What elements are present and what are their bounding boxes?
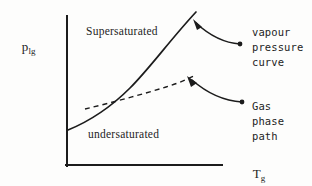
x-axis-label-main: T — [253, 166, 261, 181]
y-axis-label-main: p — [22, 39, 29, 54]
gas-phase-path — [85, 75, 196, 109]
annotation-gas-phase-path: Gas phase path — [252, 99, 284, 144]
y-axis-label-subscript: lg — [29, 46, 36, 56]
region-label-supersaturated: Supersaturated — [86, 25, 158, 37]
region-label-undersaturated: undersaturated — [88, 128, 159, 140]
vapour-pressure-diagram: plg Tg Supersaturated undersaturated vap… — [0, 0, 312, 186]
vapour-curve-leader-line — [196, 23, 240, 44]
annotation-vapour-pressure-curve: vapour pressure curve — [252, 25, 303, 70]
vapour-curve-arrowhead — [193, 19, 202, 30]
vapour-curve-leader-dot — [238, 42, 243, 47]
x-axis-label-subscript: g — [261, 173, 266, 183]
y-axis-label: plg — [8, 26, 36, 71]
gas-path-leader-dot — [240, 100, 245, 105]
gas-path-leader-line — [192, 80, 242, 102]
x-axis-label: Tg — [240, 153, 265, 186]
